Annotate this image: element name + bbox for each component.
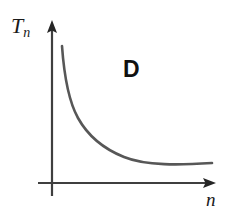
y-axis-symbol: T (11, 13, 23, 38)
plot-canvas (0, 0, 238, 221)
figure-container: Tn n D (0, 0, 238, 221)
y-axis-subscript: n (23, 25, 30, 40)
region-label-d: D (123, 58, 140, 81)
x-axis-label: n (206, 190, 216, 209)
y-axis-label: Tn (11, 15, 30, 40)
